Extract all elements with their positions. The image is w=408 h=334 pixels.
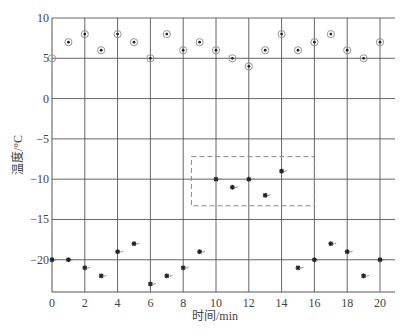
circle-dot-marker bbox=[294, 47, 301, 54]
asterisk-marker bbox=[197, 249, 205, 254]
y-tick-label: −20 bbox=[30, 253, 49, 267]
y-tick-label: 0 bbox=[43, 92, 49, 106]
asterisk-marker bbox=[312, 257, 320, 262]
circle-dot-marker bbox=[163, 31, 170, 38]
y-tick-label: −5 bbox=[36, 132, 49, 146]
dashed-rectangle bbox=[191, 157, 314, 206]
y-tick-label: −15 bbox=[30, 212, 49, 226]
x-tick-label: 16 bbox=[308, 296, 320, 310]
asterisk-marker bbox=[50, 257, 58, 262]
asterisk-marker bbox=[99, 273, 107, 278]
asterisk-marker bbox=[230, 185, 238, 190]
x-tick-label: 18 bbox=[341, 296, 353, 310]
plot-frame bbox=[52, 18, 395, 292]
asterisk-marker bbox=[132, 241, 140, 246]
circle-dot-marker bbox=[196, 39, 203, 46]
asterisk-marker bbox=[66, 257, 74, 262]
circle-dot-marker bbox=[130, 39, 137, 46]
asterisk-marker bbox=[279, 169, 287, 174]
x-tick-label: 14 bbox=[276, 296, 288, 310]
asterisk-marker bbox=[296, 265, 304, 270]
asterisk-marker bbox=[361, 273, 369, 278]
x-tick-label: 10 bbox=[210, 296, 222, 310]
y-axis-label: 温度/°C bbox=[10, 135, 25, 175]
circle-dot-marker bbox=[65, 39, 72, 46]
asterisk-marker bbox=[328, 241, 336, 246]
asterisk-marker bbox=[214, 177, 222, 182]
y-tick-label: 10 bbox=[37, 11, 49, 25]
asterisk-marker bbox=[164, 273, 172, 278]
x-axis-label: 时间/min bbox=[192, 309, 238, 323]
x-axis-ticks: 02468101214161820 bbox=[49, 296, 386, 310]
y-tick-label: 5 bbox=[43, 51, 49, 65]
x-tick-label: 6 bbox=[147, 296, 153, 310]
asterisk-marker bbox=[82, 265, 90, 270]
highlight-dashed-box bbox=[191, 157, 314, 206]
circle-dot-marker bbox=[262, 47, 269, 54]
x-tick-label: 8 bbox=[180, 296, 186, 310]
x-tick-label: 4 bbox=[115, 296, 121, 310]
circle-dot-marker bbox=[98, 47, 105, 54]
circle-dot-marker bbox=[327, 31, 334, 38]
asterisk-marker bbox=[378, 257, 386, 262]
asterisk-marker bbox=[115, 249, 123, 254]
asterisk-marker bbox=[345, 249, 353, 254]
asterisk-marker bbox=[263, 193, 271, 198]
y-tick-label: −10 bbox=[30, 172, 49, 186]
asterisk-marker bbox=[246, 177, 254, 182]
x-tick-label: 0 bbox=[49, 296, 55, 310]
asterisk-marker bbox=[181, 265, 189, 270]
x-tick-label: 2 bbox=[82, 296, 88, 310]
x-tick-label: 12 bbox=[243, 296, 255, 310]
scatter-chart: 02468101214161820 1050−5−10−15−20 时间/min… bbox=[0, 0, 408, 334]
x-tick-label: 20 bbox=[374, 296, 386, 310]
grid bbox=[52, 18, 395, 292]
y-axis-ticks: 1050−5−10−15−20 bbox=[30, 11, 49, 267]
series-lower-markers bbox=[50, 169, 386, 287]
asterisk-marker bbox=[148, 282, 156, 287]
